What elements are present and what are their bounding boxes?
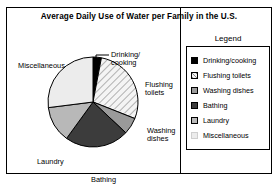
slice-label-washing-dishes: Washing dishes xyxy=(147,127,175,144)
slice-label-laundry: Laundry xyxy=(37,158,64,166)
slice-label-drinking-cooking: Drinking/ cooking xyxy=(111,51,140,68)
panel-divider xyxy=(180,8,181,173)
slice-label-flushing-toilets: Flushing toilets xyxy=(145,81,173,98)
legend-item-drinking-cooking: Drinking/cooking xyxy=(191,53,269,68)
legend-swatch-bathing xyxy=(191,102,198,109)
slice-label-miscellaneous-text: Miscellaneous xyxy=(18,61,65,70)
legend-label-flushing-toilets: Flushing toilets xyxy=(203,71,251,80)
slice-label-laundry-text: Laundry xyxy=(37,157,64,166)
legend-item-laundry: Laundry xyxy=(191,113,269,128)
slice-label-flushing-line2: toilets xyxy=(145,89,173,97)
legend-item-washing-dishes: Washing dishes xyxy=(191,83,269,98)
legend-swatch-miscellaneous xyxy=(191,132,198,139)
legend-title: Legend xyxy=(186,34,270,43)
chart-title: Average Daily Use of Water per Family in… xyxy=(6,12,272,22)
legend-item-bathing: Bathing xyxy=(191,98,269,113)
legend-box: Drinking/cooking Flushing toilets Washin… xyxy=(186,46,270,150)
chart-figure: Average Daily Use of Water per Family in… xyxy=(0,0,280,182)
legend-swatch-flushing-toilets xyxy=(191,72,198,79)
legend-item-miscellaneous: Miscellaneous xyxy=(191,128,269,143)
pie-chart: Miscellaneous Drinking/ cooking Flushing… xyxy=(8,24,180,174)
legend-label-miscellaneous: Miscellaneous xyxy=(203,131,249,140)
legend-item-flushing-toilets: Flushing toilets xyxy=(191,68,269,83)
pie-svg xyxy=(8,24,180,174)
legend-label-drinking-cooking: Drinking/cooking xyxy=(203,56,256,65)
pie-slices xyxy=(48,57,138,147)
slice-label-washing-line2: dishes xyxy=(147,135,175,143)
slice-label-bathing-text: Bathing xyxy=(91,175,116,182)
slice-label-drinking-line2: cooking xyxy=(111,59,140,67)
slice-label-bathing: Bathing xyxy=(91,176,116,182)
legend-label-bathing: Bathing xyxy=(203,101,227,110)
legend-swatch-laundry xyxy=(191,117,198,124)
legend-label-laundry: Laundry xyxy=(203,116,229,125)
legend-label-washing-dishes: Washing dishes xyxy=(203,86,253,95)
legend-swatch-washing-dishes xyxy=(191,87,198,94)
slice-label-miscellaneous: Miscellaneous xyxy=(18,62,65,70)
legend-swatch-drinking-cooking xyxy=(191,57,198,64)
